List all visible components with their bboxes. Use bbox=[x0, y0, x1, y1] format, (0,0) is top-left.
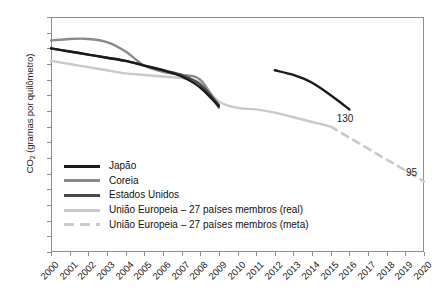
legend-swatch-4 bbox=[64, 223, 100, 226]
x-tick-mark-2019 bbox=[405, 252, 406, 256]
legend-label-2: Estados Unidos bbox=[109, 190, 179, 200]
y-axis-title-subscript: 2 bbox=[29, 155, 36, 159]
annotation-95: 95 bbox=[406, 167, 417, 178]
x-tick-mark-2009 bbox=[219, 252, 220, 256]
legend-swatch-3 bbox=[64, 209, 100, 212]
x-tick-mark-2016 bbox=[349, 252, 350, 256]
legend-swatch-2 bbox=[64, 194, 100, 197]
series-line-jap-o-proje-o bbox=[275, 70, 350, 109]
x-tick-mark-2017 bbox=[368, 252, 369, 256]
x-tick-mark-2006 bbox=[163, 252, 164, 256]
x-tick-mark-2015 bbox=[331, 252, 332, 256]
x-tick-mark-2004 bbox=[126, 252, 127, 256]
x-tick-mark-2011 bbox=[256, 252, 257, 256]
legend-swatch-0 bbox=[64, 165, 100, 168]
legend-item-0: Japão bbox=[64, 159, 309, 174]
x-tick-mark-2020 bbox=[424, 252, 425, 256]
x-tick-mark-2007 bbox=[182, 252, 183, 256]
x-tick-mark-2000 bbox=[51, 252, 52, 256]
legend-label-0: Japão bbox=[109, 161, 136, 171]
chart-legend: JapãoCoreiaEstados UnidosUnião Europeia … bbox=[64, 159, 309, 232]
y-axis-title-suffix: (gramas por quilômetro) bbox=[24, 54, 35, 156]
legend-item-4: União Europeia – 27 países membros (meta… bbox=[64, 217, 309, 232]
x-tick-mark-2014 bbox=[312, 252, 313, 256]
x-tick-mark-2012 bbox=[275, 252, 276, 256]
x-tick-mark-2008 bbox=[200, 252, 201, 256]
x-tick-mark-2005 bbox=[144, 252, 145, 256]
x-tick-mark-2002 bbox=[88, 252, 89, 256]
annotation-130: 130 bbox=[337, 113, 354, 124]
legend-label-1: Coreia bbox=[109, 176, 138, 186]
co2-emissions-line-chart: CO2 (gramas por quilômetro) 506070809010… bbox=[0, 0, 444, 290]
x-tick-mark-2010 bbox=[238, 252, 239, 256]
legend-item-1: Coreia bbox=[64, 174, 309, 189]
legend-item-3: União Europeia – 27 países membros (real… bbox=[64, 203, 309, 218]
series-line-uni-o-europeia-27-pa-ses-membros-real bbox=[51, 61, 331, 127]
legend-swatch-1 bbox=[64, 179, 100, 182]
y-axis-title: CO2 (gramas por quilômetro) bbox=[24, 29, 35, 199]
legend-label-4: União Europeia – 27 países membros (meta… bbox=[109, 220, 309, 230]
x-tick-mark-2018 bbox=[387, 252, 388, 256]
x-tick-mark-2003 bbox=[107, 252, 108, 256]
x-tick-mark-2001 bbox=[70, 252, 71, 256]
x-tick-mark-2013 bbox=[293, 252, 294, 256]
legend-label-3: União Europeia – 27 países membros (real… bbox=[109, 205, 303, 215]
legend-item-2: Estados Unidos bbox=[64, 188, 309, 203]
y-axis-title-prefix: CO bbox=[24, 159, 35, 173]
